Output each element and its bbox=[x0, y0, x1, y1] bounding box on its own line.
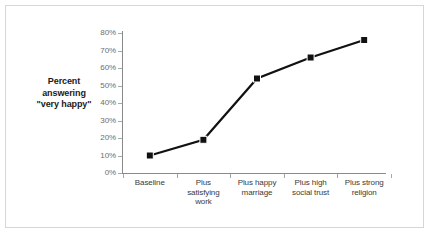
data-point-marker bbox=[307, 54, 314, 61]
data-point-marker bbox=[254, 75, 261, 82]
data-point-marker bbox=[361, 37, 368, 44]
data-point-marker bbox=[146, 152, 153, 159]
data-series-line bbox=[0, 0, 431, 235]
data-point-marker bbox=[200, 136, 207, 143]
series-polyline bbox=[150, 40, 364, 156]
series-markers bbox=[146, 37, 367, 160]
chart-figure: Percent answering "very happy" 0%10%20%3… bbox=[0, 0, 431, 235]
